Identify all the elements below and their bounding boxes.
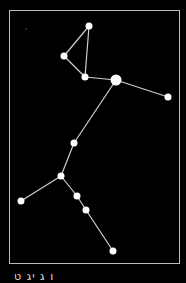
constellation-line xyxy=(85,26,89,77)
constellation-line xyxy=(64,56,85,77)
star-icon xyxy=(82,74,89,81)
star-icon xyxy=(18,198,25,205)
constellation-line xyxy=(61,143,74,176)
caption-text: ו ג יג ט xyxy=(14,271,54,282)
star-icon xyxy=(83,207,90,214)
star-icon xyxy=(61,53,68,60)
constellation-line xyxy=(74,80,116,143)
star-icon xyxy=(110,248,117,255)
star-icon xyxy=(58,173,65,180)
faint-star-icon xyxy=(25,28,27,30)
constellation-line xyxy=(64,26,89,56)
constellation-line xyxy=(21,176,61,201)
star-icon xyxy=(165,94,172,101)
constellation-line xyxy=(61,176,77,196)
star-icon xyxy=(111,75,122,86)
star-icon xyxy=(71,140,78,147)
star-icon xyxy=(86,23,93,30)
constellation-line xyxy=(86,210,113,251)
constellation-line xyxy=(116,80,168,97)
star-icon xyxy=(74,193,81,200)
